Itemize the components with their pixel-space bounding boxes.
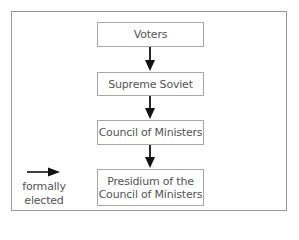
node-supreme-soviet-label: Supreme Soviet xyxy=(108,78,193,91)
legend-label: formally elected xyxy=(20,180,68,208)
node-voters: Voters xyxy=(97,22,204,47)
node-presidium: Presidium of the Council of Ministers xyxy=(97,169,204,206)
legend-label-line2: elected xyxy=(20,194,68,208)
legend-label-line1: formally xyxy=(20,180,68,194)
node-voters-label: Voters xyxy=(134,28,168,41)
legend-arrow-right-icon xyxy=(26,166,62,178)
node-presidium-label-line2: Council of Ministers xyxy=(99,188,203,201)
node-council-of-ministers-label: Council of Ministers xyxy=(99,126,203,139)
node-presidium-label-line1: Presidium of the xyxy=(107,175,193,188)
node-supreme-soviet: Supreme Soviet xyxy=(97,72,204,96)
arrow-down-icon xyxy=(143,47,157,72)
node-council-of-ministers: Council of Ministers xyxy=(97,120,204,145)
arrow-down-icon xyxy=(143,145,157,169)
arrow-down-icon xyxy=(143,96,157,120)
